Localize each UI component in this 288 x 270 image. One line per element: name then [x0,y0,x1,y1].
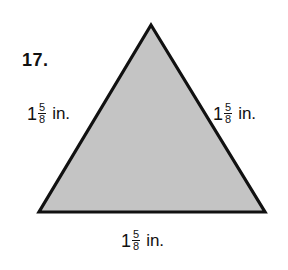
fraction: 5 8 [224,102,232,125]
whole-number: 1 [121,232,131,250]
whole-number: 1 [27,105,37,123]
left-side-length-label: 1 5 8 in. [27,102,70,125]
fraction: 5 8 [38,102,46,125]
unit: in. [52,105,70,122]
denominator: 8 [132,241,140,252]
whole-number: 1 [213,105,223,123]
denominator: 8 [224,114,232,125]
unit: in. [238,105,256,122]
unit: in. [146,232,164,249]
figure-canvas: 17. 1 5 8 in. 1 5 8 in. 1 5 8 in. [0,0,288,270]
problem-number: 17. [22,50,49,71]
right-side-length-label: 1 5 8 in. [213,102,256,125]
fraction: 5 8 [132,229,140,252]
denominator: 8 [38,114,46,125]
bottom-side-length-label: 1 5 8 in. [121,229,164,252]
